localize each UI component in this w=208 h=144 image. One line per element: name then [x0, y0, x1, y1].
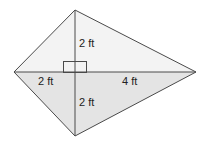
upper-triangle [14, 10, 196, 72]
left-segment-label: 2 ft [38, 75, 53, 87]
right-segment-label: 4 ft [122, 75, 137, 87]
top-segment-label: 2 ft [79, 37, 94, 49]
kite-diagram: 2 ft 2 ft 4 ft 2 ft [0, 0, 208, 144]
bottom-segment-label: 2 ft [79, 96, 94, 108]
